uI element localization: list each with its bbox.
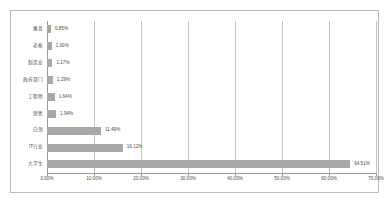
x-tick-label: 60.00% — [321, 177, 337, 182]
bar[interactable] — [47, 144, 123, 152]
bar-value-label: 1.29% — [57, 78, 70, 83]
bar-row: 白领11.49% — [47, 122, 376, 139]
bar-row: 政府部门1.29% — [47, 72, 376, 89]
x-tick-label: 20.00% — [133, 177, 149, 182]
bar-row: 销售1.94% — [47, 105, 376, 122]
x-axis: 0.00%10.00%20.00%30.00%40.00%50.00%60.00… — [47, 173, 376, 187]
bar-value-label: 1.17% — [56, 61, 69, 66]
bar-value-label: 1.64% — [59, 95, 72, 100]
bar[interactable] — [47, 160, 350, 168]
category-label: 大学生 — [28, 162, 43, 167]
bar[interactable] — [47, 59, 52, 67]
bar-row: 制造业1.17% — [47, 55, 376, 72]
bar[interactable] — [47, 76, 53, 84]
bar[interactable] — [47, 110, 56, 118]
bar-row: 大学生64.51% — [47, 156, 376, 173]
x-tick-label: 70.00% — [368, 177, 384, 182]
bar-row: 老板1.00% — [47, 38, 376, 55]
bar-value-label: 1.94% — [60, 112, 73, 117]
gridline — [376, 21, 377, 173]
x-tick-label: 40.00% — [227, 177, 243, 182]
bar[interactable] — [47, 127, 101, 135]
bar-value-label: 0.85% — [55, 27, 68, 32]
x-tick-label: 30.00% — [180, 177, 196, 182]
category-label: 销售 — [33, 112, 43, 117]
bar-row: 教育0.85% — [47, 21, 376, 38]
bar[interactable] — [47, 25, 51, 33]
bar-value-label: 11.49% — [105, 128, 120, 133]
chart-frame: 教育0.85%老板1.00%制造业1.17%政府部门1.29%工程师1.64%销… — [10, 10, 379, 193]
bar[interactable] — [47, 42, 52, 50]
category-label: 教育 — [33, 27, 43, 32]
category-label: 白领 — [33, 128, 43, 133]
category-label: 制造业 — [28, 61, 43, 66]
x-tick-label: 10.00% — [86, 177, 102, 182]
bar-row: IT行业16.12% — [47, 139, 376, 156]
bar[interactable] — [47, 93, 55, 101]
category-label: 政府部门 — [23, 78, 43, 83]
bar-rows: 教育0.85%老板1.00%制造业1.17%政府部门1.29%工程师1.64%销… — [47, 21, 376, 173]
bar-value-label: 1.00% — [56, 44, 69, 49]
category-label: 工程师 — [28, 95, 43, 100]
bar-row: 工程师1.64% — [47, 89, 376, 106]
bar-value-label: 16.12% — [127, 145, 143, 150]
bar-value-label: 64.51% — [354, 162, 370, 167]
x-tick-label: 0.00% — [40, 177, 53, 182]
plot-area: 教育0.85%老板1.00%制造业1.17%政府部门1.29%工程师1.64%销… — [47, 21, 376, 173]
x-tick-label: 50.00% — [274, 177, 290, 182]
category-label: 老板 — [33, 44, 43, 49]
category-label: IT行业 — [29, 145, 43, 150]
